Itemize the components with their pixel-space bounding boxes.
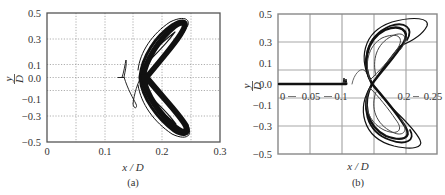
x-tick: 0.1 (98, 146, 111, 157)
panel-b-x-ticks: 0 0.05 0.1 0.2 0.25 (278, 91, 442, 102)
y-tick: 0.3 (28, 34, 41, 45)
panel-a-x-ticks: 0 0.1 0.2 0.3 (44, 146, 226, 157)
y-tick: 0.1 (28, 60, 41, 71)
svg-text:D: D (13, 75, 25, 84)
x-tick: 0.05 (302, 91, 320, 102)
panel-a-y-label: y D (2, 74, 25, 84)
x-tick: 0.2 (155, 146, 168, 157)
figure: 0.5 0.3 0.1 0.0 −0.1 −0.3 −0.5 0 0.1 0.2… (0, 0, 445, 195)
svg-text:D: D (251, 82, 263, 91)
x-tick: 0.3 (213, 146, 226, 157)
panel-b-trajectory (279, 19, 427, 148)
panel-a-grid (47, 13, 220, 142)
x-tick: 0.25 (424, 91, 442, 102)
y-tick: 0.5 (28, 8, 41, 19)
panel-b-y-label: y D (240, 81, 263, 91)
x-tick: 0.2 (397, 91, 410, 102)
panel-a-label: (a) (127, 177, 139, 189)
y-tick: −0.1 (22, 94, 41, 105)
y-tick: −0.3 (22, 111, 41, 122)
panel-a-x-label: x / D (121, 161, 143, 173)
y-tick: −0.5 (253, 149, 272, 160)
x-tick: 0 (44, 146, 49, 157)
panel-b: 0.5 0.3 0.1 0.0 −0.1 −0.3 −0.5 0 0.05 0.… (240, 9, 442, 189)
y-tick: 0.0 (28, 73, 41, 84)
y-tick: −0.1 (253, 100, 272, 111)
y-tick: 0.1 (259, 58, 272, 69)
x-tick: 0 (280, 91, 285, 102)
panel-b-x-label: x / D (346, 160, 368, 172)
panel-a: 0.5 0.3 0.1 0.0 −0.1 −0.3 −0.5 0 0.1 0.2… (2, 8, 227, 189)
y-tick: −0.3 (253, 121, 272, 132)
y-tick: −0.5 (22, 137, 41, 148)
y-tick: 0.3 (259, 37, 272, 48)
y-tick: 0.5 (259, 9, 272, 20)
x-tick: 0.1 (334, 91, 347, 102)
panel-b-label: (b) (352, 177, 365, 189)
